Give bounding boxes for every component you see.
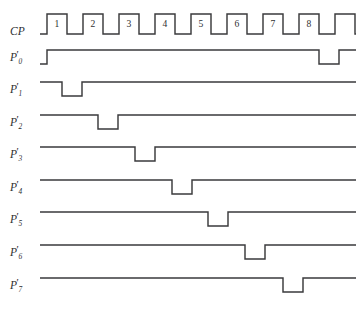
signal-label-p5: P'5 — [10, 214, 24, 226]
signal-label-prime: ' — [16, 243, 19, 255]
signal-label-subscript: 2 — [19, 122, 23, 131]
signal-waveform-p2 — [40, 115, 356, 129]
timing-diagram-figure: CPP'0P'1P'2P'3P'4P'5P'6P'7 12345678 — [0, 0, 362, 319]
signal-waveform-p6 — [40, 245, 356, 259]
signal-label-prime: ' — [16, 276, 19, 288]
clock-pulse-number-4: 4 — [158, 19, 172, 29]
signal-label-subscript: 5 — [19, 219, 23, 228]
signal-waveform-p0 — [40, 50, 356, 64]
signal-label-p6: P'6 — [10, 247, 24, 259]
signal-waveform-p5 — [40, 212, 356, 226]
waveform-canvas — [0, 0, 362, 319]
signal-waveform-p1 — [40, 82, 356, 96]
signal-label-subscript: 0 — [19, 57, 23, 66]
signal-label-subscript: 7 — [19, 285, 23, 294]
signal-label-p7: P'7 — [10, 280, 24, 292]
signal-label-subscript: 1 — [19, 89, 23, 98]
signal-label-prime: ' — [16, 80, 19, 92]
signal-label-p0: P'0 — [10, 52, 24, 64]
signal-label-prime: ' — [16, 145, 19, 157]
signal-label-prime: ' — [16, 48, 19, 60]
clock-pulse-number-6: 6 — [230, 19, 244, 29]
clock-pulse-number-7: 7 — [266, 19, 280, 29]
clock-pulse-number-8: 8 — [302, 19, 316, 29]
signal-label-cp: CP — [10, 26, 25, 38]
signal-waveform-p4 — [40, 180, 356, 194]
signal-label-p2: P'2 — [10, 117, 24, 129]
signal-label-subscript: 3 — [19, 154, 23, 163]
clock-pulse-number-5: 5 — [194, 19, 208, 29]
signal-label-prime: ' — [16, 210, 19, 222]
clock-pulse-number-3: 3 — [122, 19, 136, 29]
signal-label-subscript: 6 — [19, 252, 23, 261]
signal-label-prime: ' — [16, 178, 19, 190]
signal-waveform-p7 — [40, 278, 356, 292]
clock-pulse-number-1: 1 — [50, 19, 64, 29]
signal-label-p4: P'4 — [10, 182, 24, 194]
signal-label-subscript: 4 — [19, 187, 23, 196]
signal-label-p1: P'1 — [10, 84, 24, 96]
clock-pulse-number-2: 2 — [86, 19, 100, 29]
signal-label-p3: P'3 — [10, 149, 24, 161]
signal-label-prime: ' — [16, 113, 19, 125]
signal-waveform-p3 — [40, 147, 356, 161]
